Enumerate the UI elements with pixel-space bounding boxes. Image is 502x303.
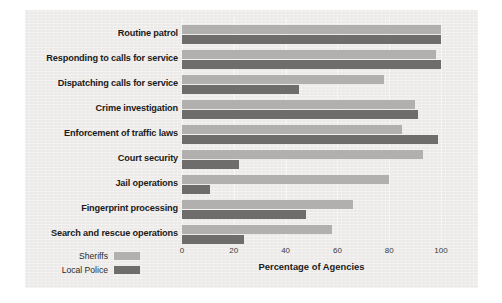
bar-local-police-1 [182,60,441,69]
bar-local-police-6 [182,185,210,194]
bar-sheriffs-2 [182,75,384,84]
chart-figure: Percentage of Agencies Sheriffs Local Po… [0,0,502,303]
x-tick-0: 0 [180,246,184,255]
category-label-7: Fingerprint processing [0,203,178,213]
category-label-4: Enforcement of traffic laws [0,128,178,138]
x-tick-40: 40 [281,246,290,255]
legend-swatch-local-police [114,266,140,274]
category-label-1: Responding to calls for service [0,53,178,63]
x-tick-60: 60 [333,246,342,255]
legend-swatch-sheriffs [114,252,140,260]
category-label-6: Jail operations [0,178,178,188]
bar-local-police-3 [182,110,418,119]
bar-sheriffs-8 [182,225,332,234]
x-axis-title: Percentage of Agencies [182,261,441,272]
bar-sheriffs-6 [182,175,389,184]
bar-local-police-4 [182,135,438,144]
category-label-2: Dispatching calls for service [0,78,178,88]
category-label-5: Court security [0,153,178,163]
bar-sheriffs-5 [182,150,423,159]
x-tick-100: 100 [434,246,447,255]
bar-sheriffs-3 [182,100,415,109]
bar-local-police-7 [182,210,306,219]
bar-local-police-2 [182,85,299,94]
category-label-3: Crime investigation [0,103,178,113]
x-tick-20: 20 [229,246,238,255]
plot-area: Percentage of Agencies Sheriffs Local Po… [0,0,502,303]
bar-sheriffs-7 [182,200,353,209]
legend-label-sheriffs: Sheriffs [46,251,108,261]
bar-local-police-5 [182,160,239,169]
category-label-8: Search and rescue operations [0,228,178,238]
chart-legend: Sheriffs Local Police [46,250,140,278]
category-label-0: Routine patrol [0,28,178,38]
x-tick-80: 80 [385,246,394,255]
legend-item-sheriffs: Sheriffs [46,250,140,261]
bar-sheriffs-4 [182,125,402,134]
legend-label-local-police: Local Police [46,265,108,275]
bar-local-police-0 [182,35,441,44]
bar-sheriffs-1 [182,50,436,59]
gridline-100 [441,18,442,244]
bar-sheriffs-0 [182,25,441,34]
bar-local-police-8 [182,235,244,244]
legend-item-local-police: Local Police [46,264,140,275]
